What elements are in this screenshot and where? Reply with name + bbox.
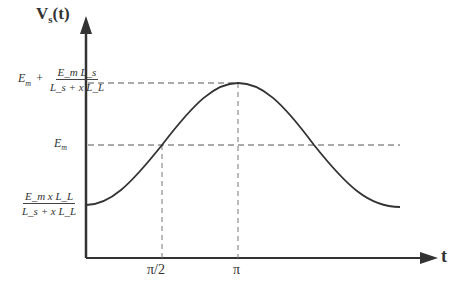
x-axis-label: t (441, 246, 447, 267)
peak-label-plus: + (36, 71, 43, 85)
voltage-waveform-diagram (0, 0, 466, 293)
y-axis-label-v: V (36, 4, 48, 23)
x-tick-pi: π (233, 262, 240, 278)
y-axis-label-arg: (t) (53, 4, 70, 23)
peak-label-numerator: E_m L_s (56, 66, 99, 80)
low-level-label: E_m x L_L L_s + x L_L (20, 190, 78, 217)
low-label-fraction: E_m x L_L L_s + x L_L (20, 190, 78, 217)
peak-label-denominator: L_s + x L_L (48, 80, 106, 93)
em-level-label: Em (54, 136, 67, 152)
low-label-numerator: E_m x L_L (23, 190, 75, 204)
em-label-sub: m (61, 143, 67, 152)
y-axis-arrow-icon (80, 16, 92, 34)
low-label-denominator: L_s + x L_L (20, 204, 78, 217)
peak-level-label: Em + E_m L_s L_s + x L_L (18, 66, 106, 93)
y-axis-label: Vs(t) (36, 4, 70, 25)
x-axis-arrow-icon (420, 252, 438, 264)
x-tick-pi-half: π/2 (147, 262, 165, 278)
peak-label-sub: m (25, 79, 31, 88)
peak-label-fraction: E_m L_s L_s + x L_L (48, 66, 106, 93)
